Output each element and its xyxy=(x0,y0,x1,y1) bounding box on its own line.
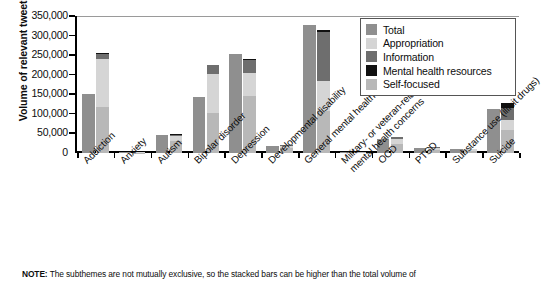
y-tick-mark xyxy=(69,15,75,17)
y-tick-mark xyxy=(69,132,75,134)
legend-label: Total xyxy=(383,24,404,36)
y-tick-label: 100,000 xyxy=(0,107,68,119)
note-text: The subthemes are not mutually exclusive… xyxy=(50,269,416,279)
chart-legend: TotalAppropriationInformationMental heal… xyxy=(360,18,516,96)
y-tick-label: 200,000 xyxy=(0,68,68,80)
segment-total xyxy=(229,54,242,153)
segment-appropriation xyxy=(501,120,514,130)
y-tick-label: 300,000 xyxy=(0,29,68,41)
legend-label: Information xyxy=(383,51,434,63)
legend-item: Total xyxy=(366,23,510,37)
y-tick-label: 250,000 xyxy=(0,48,68,60)
note-prefix: NOTE: xyxy=(22,269,48,279)
segment-appropriation xyxy=(207,74,220,113)
y-tick-label: 150,000 xyxy=(0,87,68,99)
bar-total xyxy=(193,97,206,153)
legend-swatch xyxy=(366,65,377,76)
legend-item: Mental health resources xyxy=(366,64,510,78)
legend-item: Appropriation xyxy=(366,37,510,51)
segment-appropriation xyxy=(243,73,256,96)
legend-label: Appropriation xyxy=(383,37,444,49)
y-tick-mark xyxy=(69,93,75,95)
legend-item: Self-focused xyxy=(366,77,510,91)
y-tick-label: 50,000 xyxy=(0,126,68,138)
segment-information xyxy=(243,60,256,73)
y-tick-mark xyxy=(69,54,75,56)
y-tick-mark xyxy=(69,74,75,76)
legend-swatch xyxy=(366,24,377,35)
y-tick-mark xyxy=(69,35,75,37)
bar-group xyxy=(151,16,188,153)
segment-total xyxy=(82,94,95,153)
figure-note: NOTE: The subthemes are not mutually exc… xyxy=(22,269,522,279)
legend-item: Information xyxy=(366,50,510,64)
segment-information xyxy=(317,32,330,81)
bar-total xyxy=(229,54,242,153)
bar-total xyxy=(82,94,95,153)
segment-total xyxy=(193,97,206,153)
y-tick-label: 350,000 xyxy=(0,9,68,21)
y-tick-mark xyxy=(69,113,75,115)
legend-label: Mental health resources xyxy=(383,65,492,77)
legend-label: Self-focused xyxy=(383,78,440,90)
legend-swatch xyxy=(366,51,377,62)
segment-appropriation xyxy=(96,59,109,107)
x-axis-labels: AddictionAnxietyAutismBipolar disorderDe… xyxy=(0,156,527,266)
legend-swatch xyxy=(366,79,377,90)
segment-information xyxy=(207,65,220,74)
bar-group xyxy=(114,16,151,153)
legend-swatch xyxy=(366,38,377,49)
